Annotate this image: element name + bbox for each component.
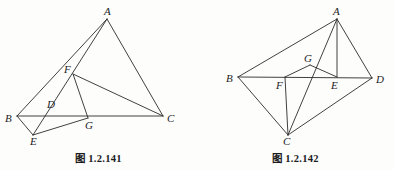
vertex-label-a: A xyxy=(104,6,111,17)
figure-left-drawing xyxy=(0,0,197,150)
segment-E-G xyxy=(33,118,88,135)
vertex-label-b: B xyxy=(226,73,233,84)
segment-G-F xyxy=(73,74,88,118)
vertex-label-e: E xyxy=(30,136,37,147)
segment-F-C xyxy=(73,74,163,116)
segment-B-E xyxy=(17,116,33,135)
vertex-label-d: D xyxy=(47,99,55,110)
vertex-label-a: A xyxy=(333,6,340,17)
vertex-label-e: E xyxy=(331,80,338,91)
vertex-label-g: G xyxy=(85,120,93,131)
vertex-label-c: C xyxy=(283,136,290,147)
segment-A-D xyxy=(337,19,372,78)
segment-C-D xyxy=(288,78,372,135)
figure-panel-left: 图 1.2.141 ABCDEFG xyxy=(0,0,197,170)
vertex-label-c: C xyxy=(167,113,174,124)
segment-A-B xyxy=(17,19,107,116)
vertex-label-f: F xyxy=(276,80,283,91)
segment-G-E xyxy=(310,65,337,77)
figure-right-caption: 图 1.2.142 xyxy=(197,150,394,165)
vertex-label-g: G xyxy=(304,53,312,64)
segment-B-D xyxy=(238,77,372,78)
segment-A-E xyxy=(33,19,107,135)
segment-A-C xyxy=(107,19,163,116)
figure-page: 图 1.2.141 ABCDEFG 图 1.2.142 ABCDEFG xyxy=(0,0,394,170)
figure-left-caption: 图 1.2.141 xyxy=(0,150,197,165)
vertex-label-f: F xyxy=(64,64,71,75)
vertex-label-b: B xyxy=(5,113,12,124)
segment-F-G xyxy=(285,65,310,77)
figure-panel-right: 图 1.2.142 ABCDEFG xyxy=(197,0,394,170)
segment-A-B xyxy=(238,19,337,77)
vertex-label-d: D xyxy=(376,74,384,85)
segment-F-C xyxy=(285,77,288,135)
